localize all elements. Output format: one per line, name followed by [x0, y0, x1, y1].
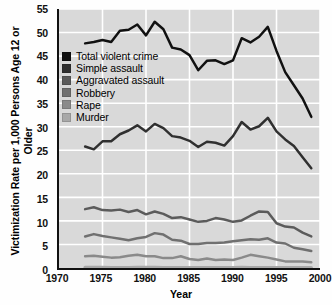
x-tick-label-2000: 2000 [309, 272, 332, 284]
legend-swatch-icon-0 [62, 52, 71, 61]
legend-label-4: Rape [76, 99, 101, 111]
x-tick-label-1980: 1980 [133, 272, 156, 284]
legend-swatch-icon-4 [62, 100, 71, 109]
y-tick-label-20: 20 [37, 169, 48, 181]
y-tick-label-10: 10 [37, 217, 48, 229]
legend: Total violent crimeSimple assaultAggrava… [62, 50, 164, 123]
legend-swatch-icon-1 [62, 64, 71, 73]
x-axis-title: Year [0, 288, 332, 300]
y-axis-tick-labels: 0510152025303540455055 [0, 0, 55, 305]
legend-item-2: Aggravated assault [62, 74, 164, 86]
x-tick-label-1995: 1995 [265, 272, 288, 284]
legend-label-1: Simple assault [76, 62, 143, 74]
y-tick-label-25: 25 [37, 145, 48, 157]
legend-item-5: Murder [62, 111, 164, 123]
y-tick-label-55: 55 [37, 3, 48, 15]
legend-label-0: Total violent crime [76, 50, 158, 62]
series-lines [59, 9, 320, 268]
x-tick-label-1990: 1990 [221, 272, 244, 284]
legend-item-4: Rape [62, 99, 164, 111]
y-tick-label-45: 45 [37, 50, 48, 62]
x-tick-label-1975: 1975 [90, 272, 113, 284]
legend-swatch-icon-3 [62, 88, 71, 97]
plot-area [57, 9, 320, 270]
x-tick-label-1985: 1985 [177, 272, 200, 284]
legend-item-1: Simple assault [62, 62, 164, 74]
series-line-3 [85, 233, 311, 251]
x-axis-tick-labels: 1970197519801985199019952000 [0, 272, 332, 288]
legend-item-3: Robbery [62, 87, 164, 99]
y-tick-label-40: 40 [37, 74, 48, 86]
series-line-4 [85, 255, 311, 263]
y-tick-label-30: 30 [37, 122, 48, 134]
y-tick-label-35: 35 [37, 98, 48, 110]
legend-label-2: Aggravated assault [76, 74, 164, 86]
legend-swatch-icon-2 [62, 76, 71, 85]
legend-item-0: Total violent crime [62, 50, 164, 62]
y-tick-label-15: 15 [37, 193, 48, 205]
x-tick-label-1970: 1970 [46, 272, 69, 284]
victimization-rate-line-chart: Victimization Rate per 1,000 Persons Age… [0, 0, 332, 305]
y-tick-label-50: 50 [37, 27, 48, 39]
series-line-1 [85, 118, 311, 168]
legend-label-5: Murder [76, 111, 109, 123]
y-tick-label-5: 5 [42, 240, 48, 252]
legend-label-3: Robbery [76, 87, 115, 99]
series-line-2 [85, 207, 311, 236]
legend-swatch-icon-5 [62, 113, 71, 122]
